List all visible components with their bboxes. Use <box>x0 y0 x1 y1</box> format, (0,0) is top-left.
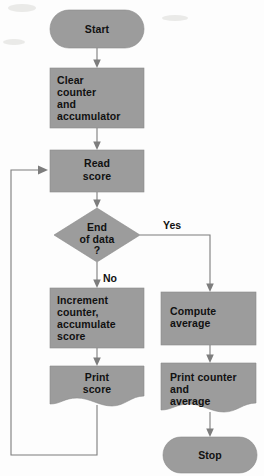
node-read-score[interactable]: Read score <box>50 150 144 192</box>
compute-average-line-2: average <box>170 317 210 329</box>
clear-counter-line-4: accumulator <box>57 110 121 122</box>
node-clear-counter[interactable]: Clear counter and accumulator <box>50 68 144 128</box>
edge-label-yes: Yes <box>163 219 181 231</box>
print-score-line-1: Print <box>85 371 110 383</box>
page-smudge-top <box>162 15 188 21</box>
clear-counter-line-1: Clear <box>57 74 84 86</box>
stop-label: Stop <box>198 449 222 461</box>
print-totals-line-1: Print counter <box>170 371 237 383</box>
compute-average-line-1: Compute <box>170 305 216 317</box>
decision-line-3: ? <box>94 244 101 256</box>
start-label: Start <box>85 23 110 35</box>
page-smudge-corner <box>8 4 36 12</box>
node-increment-counter[interactable]: Increment counter, accumulate score <box>50 288 144 348</box>
node-compute-average[interactable]: Compute average <box>161 292 256 345</box>
edge-label-no: No <box>103 272 117 284</box>
node-start[interactable]: Start <box>50 10 144 48</box>
print-score-line-2: score <box>83 383 112 395</box>
flowchart-diagram: No Yes Start Clear counter and accumulat… <box>0 0 264 476</box>
node-stop[interactable]: Stop <box>163 437 257 473</box>
increment-counter-line-1: Increment <box>57 294 108 306</box>
clear-counter-line-3: and <box>57 98 76 110</box>
clear-counter-line-2: counter <box>57 86 96 98</box>
read-score-line-1: Read <box>84 157 110 169</box>
increment-counter-line-3: accumulate <box>57 318 116 330</box>
print-totals-line-3: average <box>170 395 210 407</box>
increment-counter-line-2: counter, <box>57 306 99 318</box>
read-score-line-2: score <box>83 170 112 182</box>
node-print-totals[interactable]: Print counter and average <box>161 363 256 412</box>
decision-line-1: End <box>87 221 107 233</box>
node-print-score[interactable]: Print score <box>50 366 144 406</box>
page-smudge-left <box>3 39 25 45</box>
print-totals-line-2: and <box>170 383 189 395</box>
increment-counter-line-4: score <box>57 330 86 342</box>
